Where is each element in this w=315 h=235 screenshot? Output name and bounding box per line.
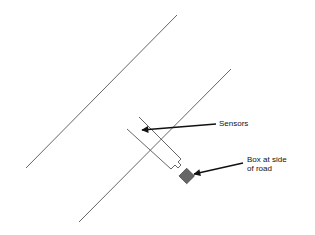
box-label-line2: of road <box>247 164 287 173</box>
box-label: Box at side of road <box>247 155 287 173</box>
road-edge-right <box>79 69 231 222</box>
road-edge-left <box>26 15 177 168</box>
box-label-line1: Box at side <box>247 155 287 164</box>
roadside-box <box>179 168 195 184</box>
road-sensor-diagram <box>0 0 315 235</box>
sensors-label: Sensors <box>219 119 248 128</box>
sensors-arrow <box>142 124 216 130</box>
box-arrow <box>194 163 243 174</box>
sensor-loop <box>127 117 181 169</box>
